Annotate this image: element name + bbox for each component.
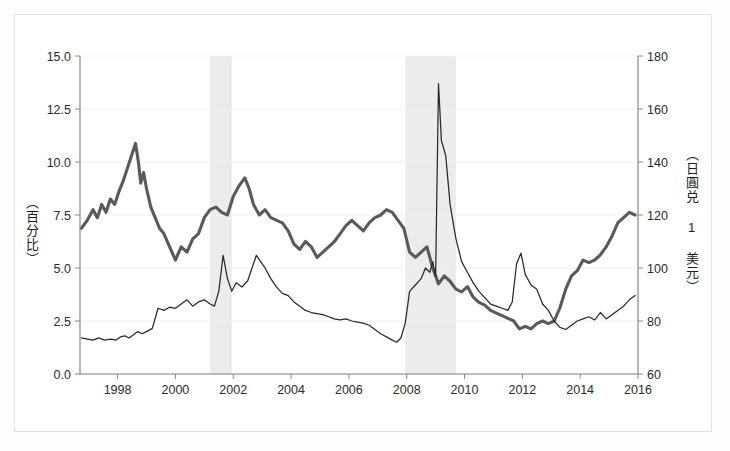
y-tick-right-160: 160 (647, 103, 668, 117)
x-tick-2006: 2006 (335, 383, 363, 397)
chart-figure: 0.02.55.07.510.012.515.06080100120140160… (0, 0, 730, 451)
gridlines (80, 56, 638, 321)
y-tick-left-15.0: 15.0 (47, 50, 71, 64)
y-tick-left-7.5: 7.5 (54, 209, 71, 223)
data-series (81, 84, 635, 343)
y-tick-left-10.0: 10.0 (47, 156, 71, 170)
x-tick-2008: 2008 (393, 383, 421, 397)
y-tick-right-180: 180 (647, 50, 668, 64)
x-tick-2004: 2004 (277, 383, 305, 397)
x-tick-2016: 2016 (624, 383, 652, 397)
x-tick-2000: 2000 (162, 383, 190, 397)
y-tick-right-60: 60 (647, 368, 661, 382)
x-tick-1998: 1998 (104, 383, 132, 397)
x-tick-2012: 2012 (508, 383, 536, 397)
chart-plot-area: 0.02.55.07.510.012.515.06080100120140160… (0, 0, 730, 451)
x-tick-2002: 2002 (219, 383, 247, 397)
y-tick-left-0.0: 0.0 (54, 368, 71, 382)
y-tick-right-100: 100 (647, 262, 668, 276)
x-tick-2010: 2010 (451, 383, 479, 397)
series-unemployment-or-spread-percent (81, 84, 635, 343)
y-tick-left-12.5: 12.5 (47, 103, 71, 117)
y-axis-label-right: （日圓兑 1 美元） (682, 148, 701, 294)
y-tick-right-80: 80 (647, 315, 661, 329)
y-tick-left-5.0: 5.0 (54, 262, 71, 276)
y-tick-left-2.5: 2.5 (54, 315, 71, 329)
y-tick-right-140: 140 (647, 156, 668, 170)
series-yen-per-usd (81, 143, 635, 329)
y-tick-right-120: 120 (647, 209, 668, 223)
y-axis-label-left: （百分比） (22, 196, 41, 266)
x-tick-2014: 2014 (566, 383, 594, 397)
